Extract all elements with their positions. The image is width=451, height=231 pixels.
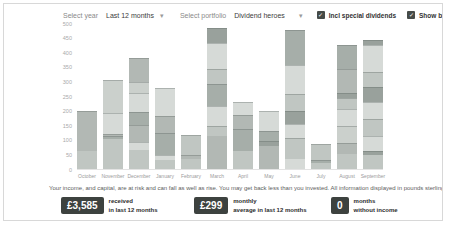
chevron-down-icon: ▾ xyxy=(299,12,303,19)
risk-disclaimer: Your income, and capital, are at risk an… xyxy=(49,185,442,191)
bar-segment xyxy=(337,69,357,93)
bar-may[interactable] xyxy=(259,111,279,169)
bar-segment xyxy=(363,119,383,136)
y-axis: 050100150200250300350400450500 xyxy=(4,24,77,170)
show-breakdown-checkbox-group[interactable]: Show breakdown xyxy=(407,11,443,19)
x-axis-label: June xyxy=(285,173,305,179)
monthly-average-label-line1: monthly xyxy=(233,198,256,204)
bar-segment xyxy=(155,116,175,132)
bar-segment xyxy=(207,43,227,68)
bar-october[interactable] xyxy=(77,111,97,169)
bar-segment xyxy=(363,102,383,119)
year-select[interactable]: Last 12 months ▾ xyxy=(106,12,164,19)
bar-segment xyxy=(233,102,253,115)
year-select-value: Last 12 months xyxy=(106,12,154,19)
month-labels: OctoberNovemberDecemberJanuaryFebruaryMa… xyxy=(77,173,383,179)
x-axis-label: December xyxy=(129,173,149,179)
months-without-income-label-line1: months xyxy=(354,198,376,204)
y-tick-label: 500 xyxy=(63,21,72,27)
monthly-average-label: monthly average in last 12 months xyxy=(233,197,306,213)
monthly-average-label-line2: average in last 12 months xyxy=(233,207,306,213)
bar-segment xyxy=(233,115,253,129)
y-tick-label: 150 xyxy=(63,123,72,129)
select-portfolio-label: Select portfolio xyxy=(180,12,226,19)
bar-august[interactable] xyxy=(337,45,357,169)
checkbox-checked-icon[interactable] xyxy=(317,11,325,19)
x-axis-label: March xyxy=(207,173,227,179)
bar-july[interactable] xyxy=(311,144,331,169)
filter-bar: Select year Last 12 months ▾ Select port… xyxy=(4,4,442,19)
months-without-income-value-badge: 0 xyxy=(331,197,349,214)
bar-november[interactable] xyxy=(103,80,123,169)
summary-received: £3,585 received in last 12 months xyxy=(61,197,194,214)
select-year-label: Select year xyxy=(63,12,98,19)
x-axis-label: May xyxy=(259,173,279,179)
y-tick-label: 200 xyxy=(63,109,72,115)
monthly-average-value-badge: £299 xyxy=(194,197,228,214)
y-tick-label: 350 xyxy=(63,65,72,71)
bar-segment xyxy=(363,136,383,150)
bar-segment xyxy=(233,129,253,151)
bar-segment xyxy=(337,109,357,126)
received-value-badge: £3,585 xyxy=(61,197,104,214)
bar-segment xyxy=(259,146,279,169)
bar-segment xyxy=(285,94,305,111)
bar-segment xyxy=(155,133,175,156)
bar-segment xyxy=(155,160,175,169)
y-tick-label: 0 xyxy=(69,167,72,173)
chevron-down-icon: ▾ xyxy=(160,12,164,19)
bar-segment xyxy=(207,126,227,136)
bar-segment xyxy=(311,163,331,169)
bar-segment xyxy=(285,111,305,124)
bar-september[interactable] xyxy=(363,40,383,169)
plot-area: OctoberNovemberDecemberJanuaryFebruaryMa… xyxy=(77,24,383,179)
bar-segment xyxy=(259,131,279,141)
bar-segment xyxy=(129,125,149,142)
bar-segment xyxy=(337,45,357,69)
summary-months-without-income: 0 months without income xyxy=(331,197,398,214)
bar-june[interactable] xyxy=(285,30,305,169)
bar-january[interactable] xyxy=(155,88,175,169)
bar-segment xyxy=(285,159,305,169)
checkbox-checked-icon[interactable] xyxy=(407,11,415,19)
bar-segment xyxy=(129,142,149,150)
bar-march[interactable] xyxy=(207,28,227,169)
y-tick-label: 450 xyxy=(63,36,72,42)
bar-segment xyxy=(103,80,123,113)
bar-segment xyxy=(207,69,227,84)
x-axis-label: April xyxy=(233,173,253,179)
months-without-income-label-line2: without income xyxy=(354,207,398,213)
x-axis-label: October xyxy=(77,173,97,179)
bar-segment xyxy=(207,28,227,44)
bar-december[interactable] xyxy=(129,58,149,169)
bar-segment xyxy=(77,151,97,169)
summary-monthly-average: £299 monthly average in last 12 months xyxy=(194,197,331,214)
bars xyxy=(77,24,383,170)
x-axis-label: January xyxy=(155,173,175,179)
bar-segment xyxy=(337,154,357,169)
bar-segment xyxy=(155,88,175,116)
x-axis-label: September xyxy=(363,173,383,179)
bar-segment xyxy=(207,84,227,106)
show-breakdown-label: Show breakdown xyxy=(419,12,443,19)
bar-february[interactable] xyxy=(181,135,201,169)
bar-segment xyxy=(181,135,201,156)
y-tick-label: 100 xyxy=(63,138,72,144)
incl-special-dividends-checkbox-group[interactable]: Incl special dividends xyxy=(317,11,396,19)
bar-segment xyxy=(285,30,305,65)
bar-april[interactable] xyxy=(233,102,253,169)
bar-segment xyxy=(103,139,123,169)
y-tick-label: 400 xyxy=(63,50,72,56)
bar-segment xyxy=(259,111,279,131)
bar-segment xyxy=(129,93,149,112)
bar-segment xyxy=(207,106,227,126)
bar-segment xyxy=(337,126,357,143)
received-label: received in last 12 months xyxy=(109,197,158,213)
bar-segment xyxy=(363,87,383,102)
bar-segment xyxy=(363,45,383,72)
portfolio-select[interactable]: Dividend heroes ▾ xyxy=(234,12,303,19)
bar-segment xyxy=(311,144,331,160)
bar-segment xyxy=(129,150,149,169)
bar-segment xyxy=(207,136,227,169)
bar-segment xyxy=(129,112,149,125)
